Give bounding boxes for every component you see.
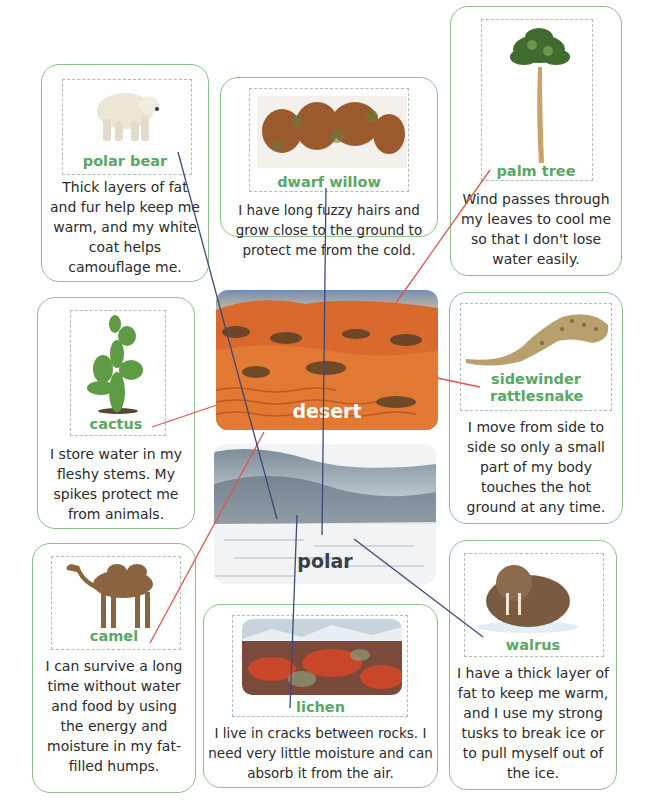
habitat-polar: polar [214, 444, 436, 584]
card-walrus: walrus I have a thick layer of fat to ke… [449, 540, 617, 790]
card-label: palm tree [451, 163, 621, 180]
habitat-label-desert: desert [216, 400, 438, 422]
card-label: lichen [204, 699, 437, 716]
card-description: I can survive a long time without water … [33, 656, 195, 776]
card-label: polar bear [42, 153, 208, 170]
habitat-label-polar: polar [214, 550, 436, 572]
card-description: Wind passes through my leaves to cool me… [451, 189, 621, 269]
card-label: cactus [38, 416, 194, 433]
card-label: sidewinder rattlesnake [450, 371, 622, 405]
card-palm-tree: palm tree Wind passes through my leaves … [450, 6, 622, 276]
card-dwarf-willow: dwarf willow I have long fuzzy hairs and… [220, 77, 438, 237]
card-label: dwarf willow [221, 174, 437, 191]
card-camel: camel I can survive a long time without … [32, 543, 196, 793]
card-polar-bear: polar bear Thick layers of fat and fur h… [41, 64, 209, 282]
lichen-image [242, 619, 402, 695]
card-description: Thick layers of fat and fur help keep me… [42, 177, 208, 277]
walrus-image [478, 557, 578, 633]
card-label: walrus [450, 637, 616, 654]
card-description: I store water in my fleshy stems. My spi… [38, 444, 194, 524]
card-description: I have a thick layer of fat to keep me w… [450, 663, 616, 783]
card-label: camel [33, 628, 195, 645]
card-description: I have long fuzzy hairs and grow close t… [221, 200, 437, 260]
dwarf-willow-image [257, 96, 407, 168]
cactus-image [83, 314, 153, 414]
card-description: I live in cracks between rocks. I need v… [204, 723, 437, 783]
polar-bear-image [87, 81, 167, 147]
card-description: I move from side to side so only a small… [450, 417, 622, 517]
card-sidewinder-rattlesnake: sidewinder rattlesnake I move from side … [449, 292, 623, 524]
habitat-desert: desert [216, 290, 438, 430]
sidewinder-rattlesnake-image [462, 307, 612, 367]
camel-image [57, 558, 173, 630]
card-lichen: lichen I live in cracks between rocks. I… [203, 604, 438, 788]
card-cactus: cactus I store water in my fleshy stems.… [37, 297, 195, 529]
palm-tree-image [506, 27, 572, 165]
